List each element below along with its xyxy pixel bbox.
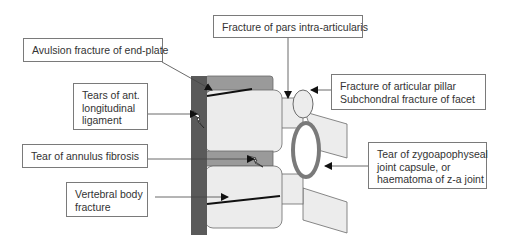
label-ant-longitudinal-ligament: Tears of ant. longitudinal ligament	[73, 83, 148, 130]
lower-lamina	[303, 188, 347, 233]
label-articular-pillar: Fracture of articular pillar Subchondral…	[331, 74, 486, 110]
label-text: Tear of zygoapophyseal	[377, 148, 478, 161]
label-text: longitudinal	[82, 102, 139, 115]
label-text: Tears of ant.	[82, 89, 139, 102]
articular-facet	[293, 90, 313, 118]
label-avulsion-fracture: Avulsion fracture of end-plate	[23, 38, 163, 62]
lower-pedicle	[279, 174, 303, 204]
label-text: Vertebral body	[75, 188, 139, 201]
upper-vertebral-body	[205, 90, 282, 152]
intervertebral-disc	[205, 151, 273, 166]
zygoapophyseal-joint-ring	[293, 123, 319, 177]
label-pars-fracture: Fracture of pars intra-articularis	[213, 15, 363, 38]
label-text: Tear of annulus fibrosis	[31, 150, 139, 163]
label-text: fracture	[75, 201, 139, 214]
label-text: Fracture of pars intra-articularis	[222, 21, 354, 34]
label-zygoapophyseal-tear: Tear of zygoapophyseal joint capsule, or…	[368, 142, 487, 189]
label-text: Subchondral fracture of facet	[340, 93, 477, 106]
label-text: haematoma of z-a joint	[377, 173, 478, 186]
label-text: joint capsule, or	[377, 161, 478, 174]
label-vertebral-body-fracture: Vertebral body fracture	[66, 182, 148, 217]
anterior-longitudinal-ligament	[191, 76, 207, 235]
label-annulus-tear: Tear of annulus fibrosis	[22, 144, 148, 168]
label-text: Fracture of articular pillar	[340, 80, 477, 93]
label-text: ligament	[82, 114, 139, 127]
label-text: Avulsion fracture of end-plate	[32, 44, 154, 57]
